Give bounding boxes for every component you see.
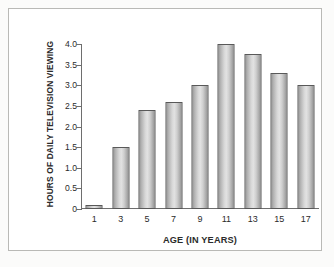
bar[interactable] xyxy=(297,85,314,209)
x-axis-tick-label: 5 xyxy=(134,212,160,226)
bar-slot xyxy=(107,44,133,209)
x-axis-tick-label: 15 xyxy=(266,212,292,226)
y-axis-tick-label: 4.0 xyxy=(55,38,77,50)
y-axis-tick-label: 3.0 xyxy=(55,79,77,91)
bar-slot xyxy=(213,44,239,209)
x-axis-tick-label: 13 xyxy=(240,212,266,226)
y-axis-tick-mark xyxy=(76,106,81,107)
bar[interactable] xyxy=(112,147,129,209)
x-axis-tick-label: 17 xyxy=(293,212,319,226)
y-axis-tick-mark xyxy=(76,168,81,169)
x-axis-tick-label: 9 xyxy=(187,212,213,226)
bar-slot xyxy=(134,44,160,209)
bar[interactable] xyxy=(139,110,156,209)
bar-slot xyxy=(293,44,319,209)
y-axis-tick-label: 3.5 xyxy=(55,59,77,71)
x-axis-tick-label: 1 xyxy=(81,212,107,226)
y-axis-tick-label: 2.0 xyxy=(55,121,77,133)
y-axis-tick-mark xyxy=(76,65,81,66)
x-axis-tick-label: 7 xyxy=(160,212,186,226)
x-axis-tick-label: 11 xyxy=(213,212,239,226)
bar[interactable] xyxy=(244,54,261,209)
y-axis-tick-label: 1.5 xyxy=(55,141,77,153)
bar[interactable] xyxy=(86,205,103,209)
plot-area xyxy=(81,44,319,209)
chart-figure: HOURS OF DAILY TELEVISION VIEWING 4.03.5… xyxy=(0,0,334,267)
bar[interactable] xyxy=(165,102,182,209)
y-axis-tick-mark xyxy=(76,188,81,189)
x-axis-title: AGE (IN YEARS) xyxy=(81,235,319,245)
y-axis-tick-mark xyxy=(76,44,81,45)
x-axis-tick-label: 3 xyxy=(107,212,133,226)
bar-slot xyxy=(266,44,292,209)
y-axis-tick-label: 2.5 xyxy=(55,100,77,112)
y-axis-tick-label-group: 4.03.53.02.52.01.51.00.50 xyxy=(55,38,77,210)
bar-slot xyxy=(187,44,213,209)
bar-slot xyxy=(240,44,266,209)
x-axis-tick-label-group: 1357911131517 xyxy=(81,212,319,226)
y-axis-tick-mark xyxy=(76,209,81,210)
y-axis-tick-mark xyxy=(76,85,81,86)
bar-slot xyxy=(160,44,186,209)
bar[interactable] xyxy=(218,44,235,209)
y-axis-tick-label: 1.0 xyxy=(55,162,77,174)
bar[interactable] xyxy=(191,85,208,209)
bar-slot xyxy=(81,44,107,209)
chart-frame: HOURS OF DAILY TELEVISION VIEWING 4.03.5… xyxy=(8,8,322,251)
y-axis-tick-label: 0 xyxy=(55,203,77,215)
y-axis-tick-label: 0.5 xyxy=(55,182,77,194)
y-axis-tick-mark xyxy=(76,127,81,128)
bar[interactable] xyxy=(271,73,288,209)
bar-series xyxy=(81,44,319,209)
y-axis-tick-mark xyxy=(76,147,81,148)
